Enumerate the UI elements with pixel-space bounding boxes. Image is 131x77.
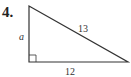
side-label-base: 12 — [65, 66, 75, 77]
side-label-hypotenuse: 13 — [78, 23, 88, 34]
right-triangle-diagram: a 13 12 — [0, 0, 131, 77]
right-angle-marker — [29, 55, 36, 62]
side-label-a: a — [19, 31, 24, 42]
triangle — [29, 6, 128, 62]
